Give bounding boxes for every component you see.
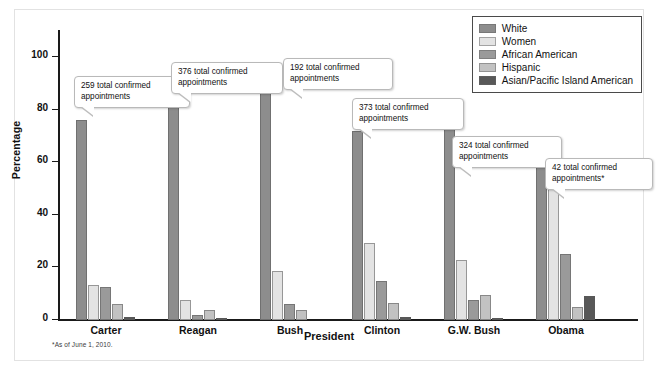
y-tick-20: 20: [52, 266, 58, 267]
bar: [272, 271, 283, 320]
y-tick-label: 80: [37, 102, 48, 113]
bar: [76, 120, 87, 320]
legend-item: Asian/Pacific Island American: [479, 74, 633, 87]
bar: [492, 318, 503, 320]
y-tick-80: 80: [52, 109, 58, 110]
y-tick-100: 100: [52, 56, 58, 57]
legend-swatch: [479, 37, 496, 46]
bar: [204, 310, 215, 321]
bar: [376, 281, 387, 320]
bar: [468, 300, 479, 320]
bar: [388, 303, 399, 320]
bar: [124, 317, 135, 320]
y-tick-label: 100: [31, 49, 48, 60]
callout-line: 324 total confirmed: [459, 141, 555, 152]
legend-swatch: [479, 50, 496, 59]
callout-line: appointments: [178, 78, 276, 89]
callout-line: appointments: [359, 114, 457, 125]
callout-line: 42 total confirmed: [552, 163, 646, 174]
bar: [364, 243, 375, 321]
bar: [456, 260, 467, 320]
bar: [168, 89, 179, 320]
y-tick-60: 60: [52, 161, 58, 162]
callout-tail: [459, 166, 472, 176]
bar: [296, 310, 307, 321]
legend-label: White: [502, 23, 528, 34]
bar: [584, 296, 595, 320]
y-tick-40: 40: [52, 214, 58, 215]
legend-item: White: [479, 22, 633, 35]
callout-tail: [290, 88, 303, 98]
y-tick-0: 0: [52, 319, 58, 320]
callout-annotation: 192 total confirmedappointments: [283, 58, 393, 90]
callout-line: 376 total confirmed: [178, 67, 276, 78]
callout-annotation: 42 total confirmedappointments*: [545, 158, 653, 190]
y-axis-line: [58, 30, 60, 320]
callout-tail: [359, 128, 372, 138]
bar-group: Carter: [76, 31, 136, 320]
bar: [192, 315, 203, 320]
chart-legend: WhiteWomenAfrican AmericanHispanicAsian/…: [472, 16, 642, 93]
bar: [100, 287, 111, 320]
callout-line: 259 total confirmed: [81, 81, 183, 92]
callout-line: 192 total confirmed: [290, 63, 386, 74]
callout-tail: [552, 188, 565, 198]
callout-tail: [81, 106, 94, 116]
bar: [284, 304, 295, 320]
legend-swatch: [479, 24, 496, 33]
callout-line: 373 total confirmed: [359, 103, 457, 114]
bar: [352, 131, 363, 320]
legend-item: African American: [479, 48, 633, 61]
legend-swatch: [479, 63, 496, 72]
bar: [400, 317, 411, 320]
bar: [560, 254, 571, 320]
bar: [88, 285, 99, 320]
y-tick-label: 40: [37, 207, 48, 218]
y-tick-label: 20: [37, 259, 48, 270]
legend-label: Hispanic: [502, 62, 540, 73]
legend-label: Women: [502, 36, 536, 47]
callout-annotation: 376 total confirmedappointments: [171, 62, 283, 94]
callout-tail: [178, 92, 191, 102]
callout-line: appointments*: [552, 174, 646, 185]
bar: [480, 295, 491, 320]
bar: [180, 300, 191, 320]
y-axis-title: Percentage: [10, 121, 22, 180]
footnote: *As of June 1, 2010.: [52, 341, 113, 348]
bar: [260, 91, 271, 320]
bar: [548, 189, 559, 320]
y-tick-label: 60: [37, 154, 48, 165]
callout-line: appointments: [290, 74, 386, 85]
callout-annotation: 373 total confirmedappointments: [352, 98, 464, 130]
bar: [572, 307, 583, 320]
legend-label: Asian/Pacific Island American: [502, 75, 633, 86]
legend-swatch: [479, 76, 496, 85]
chart-figure: Percentage 020406080100 CarterReaganBush…: [0, 0, 658, 371]
legend-label: African American: [502, 49, 578, 60]
y-tick-label: 0: [42, 312, 48, 323]
callout-line: appointments: [459, 152, 555, 163]
legend-item: Women: [479, 35, 633, 48]
legend-item: Hispanic: [479, 61, 633, 74]
callout-line: appointments: [81, 92, 183, 103]
bar: [216, 318, 227, 320]
bar: [112, 304, 123, 320]
